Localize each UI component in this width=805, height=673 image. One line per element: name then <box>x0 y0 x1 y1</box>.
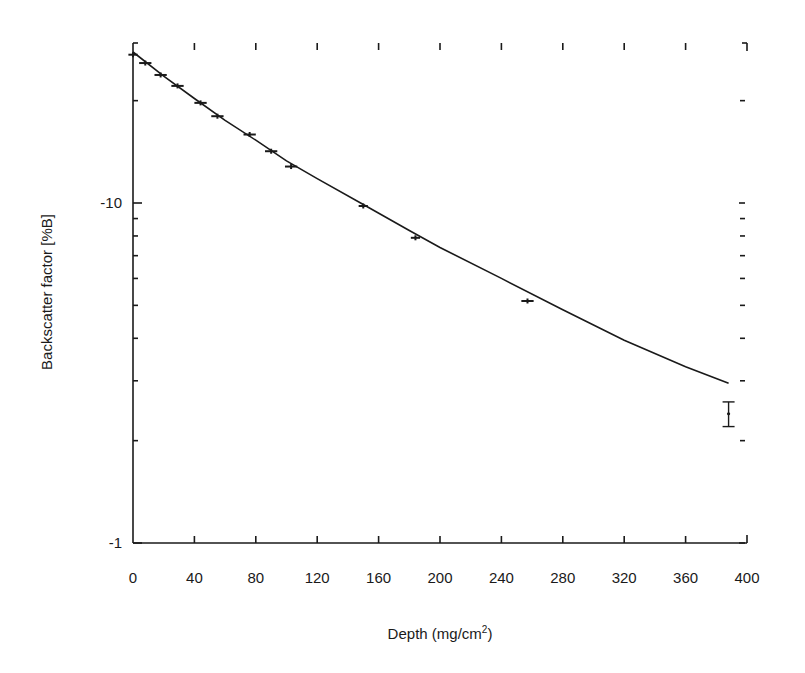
data-points <box>128 52 734 426</box>
x-tick-label: 160 <box>366 569 391 586</box>
fit-curve <box>133 52 729 383</box>
x-tick-label: 200 <box>427 569 452 586</box>
data-point <box>359 203 368 208</box>
x-tick-label: 320 <box>612 569 637 586</box>
data-point <box>723 402 735 427</box>
data-point <box>521 298 533 303</box>
x-tick-label: 120 <box>305 569 330 586</box>
data-point <box>128 52 137 57</box>
chart: 04080120160200240280320360400-10-1 Depth… <box>0 0 805 673</box>
fit-curve-path <box>133 52 729 383</box>
x-axis-label: Depth (mg/cm2) <box>388 624 493 642</box>
x-tick-label: 400 <box>734 569 759 586</box>
axes: 04080120160200240280320360400-10-1 <box>100 43 759 586</box>
x-tick-label: 280 <box>550 569 575 586</box>
data-point <box>171 83 183 88</box>
data-point <box>194 100 206 105</box>
x-tick-label: 0 <box>129 569 137 586</box>
axis-labels: Depth (mg/cm2) Backscatter factor [%B] <box>38 214 492 642</box>
y-axis-label: Backscatter factor [%B] <box>38 214 55 370</box>
x-tick-label: 40 <box>186 569 203 586</box>
x-tick-label: 240 <box>489 569 514 586</box>
y-tick-label: -10 <box>100 194 122 211</box>
y-tick-label: -1 <box>109 534 122 551</box>
data-point <box>285 164 297 169</box>
x-tick-label: 80 <box>247 569 264 586</box>
x-tick-label: 360 <box>673 569 698 586</box>
